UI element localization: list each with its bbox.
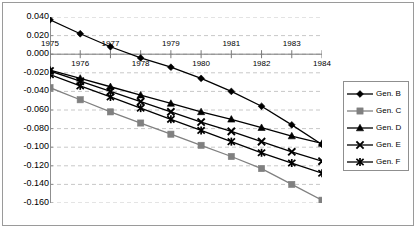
x-axis-tick-label: 1978 bbox=[127, 60, 155, 68]
chart-legend: Gen. BGen. CGen. DGen. EGen. F bbox=[343, 81, 409, 171]
data-point-marker bbox=[198, 75, 205, 82]
data-point-marker bbox=[137, 104, 144, 112]
data-point-marker bbox=[77, 82, 84, 90]
data-point-marker bbox=[77, 30, 84, 37]
y-axis: 0.0400.0200.000-0.020-0.040-0.060-0.080-… bbox=[3, 3, 49, 227]
data-point-marker bbox=[228, 153, 234, 159]
legend-item-gen-b[interactable]: Gen. B bbox=[344, 85, 410, 103]
legend-item-gen-e[interactable]: Gen. E bbox=[344, 136, 410, 154]
data-point-marker bbox=[357, 91, 364, 98]
data-point-marker bbox=[107, 109, 113, 115]
series-line bbox=[50, 88, 322, 201]
x-axis-tick-label: 1980 bbox=[187, 60, 215, 68]
series-gen-c bbox=[50, 85, 322, 203]
series-gen-f bbox=[50, 71, 322, 178]
data-point-marker bbox=[258, 149, 265, 157]
y-axis-tick-label: 0.040 bbox=[5, 12, 49, 21]
data-point-marker bbox=[107, 93, 114, 101]
y-axis-tick-label: -0.040 bbox=[5, 86, 49, 95]
y-axis-tick-label: -0.120 bbox=[5, 161, 49, 170]
y-axis-tick-label: -0.100 bbox=[5, 142, 49, 151]
data-point-marker bbox=[198, 126, 205, 134]
legend-marker-square-icon bbox=[346, 102, 374, 120]
data-point-marker bbox=[289, 181, 295, 187]
data-point-marker bbox=[50, 85, 53, 91]
data-point-marker bbox=[198, 118, 205, 125]
data-point-marker bbox=[357, 108, 363, 114]
y-axis-tick-label: -0.060 bbox=[5, 105, 49, 114]
legend-marker-x-icon bbox=[346, 136, 374, 154]
chart-frame: 0.0400.0200.000-0.020-0.040-0.060-0.080-… bbox=[2, 2, 414, 226]
data-point-marker bbox=[167, 115, 174, 123]
y-axis-tick-label: -0.080 bbox=[5, 124, 49, 133]
data-point-marker bbox=[258, 165, 264, 171]
legend-label: Gen. B bbox=[376, 89, 401, 98]
data-point-marker bbox=[77, 97, 83, 103]
series-gen-d bbox=[50, 66, 322, 146]
x-axis-tick-label: 1979 bbox=[157, 40, 185, 48]
data-point-marker bbox=[167, 108, 174, 115]
legend-marker-star-icon bbox=[346, 153, 374, 171]
y-axis-tick-label: -0.020 bbox=[5, 68, 49, 77]
data-point-marker bbox=[167, 64, 174, 71]
legend-item-gen-d[interactable]: Gen. D bbox=[344, 119, 410, 137]
x-axis-tick-label: 1984 bbox=[308, 60, 336, 68]
data-point-marker bbox=[258, 138, 265, 145]
data-point-marker bbox=[198, 142, 204, 148]
legend-item-gen-f[interactable]: Gen. F bbox=[344, 153, 410, 171]
legend-marker-diamond-icon bbox=[346, 85, 374, 103]
data-point-marker bbox=[258, 103, 265, 110]
x-axis-tick-label: 1977 bbox=[96, 40, 124, 48]
x-axis-tick-label: 1983 bbox=[278, 40, 306, 48]
y-axis-tick-label: -0.140 bbox=[5, 179, 49, 188]
data-point-marker bbox=[138, 120, 144, 126]
series-line bbox=[50, 75, 322, 174]
data-point-marker bbox=[288, 148, 295, 155]
data-point-marker bbox=[50, 17, 53, 23]
legend-label: Gen. D bbox=[376, 123, 401, 132]
legend-label: Gen. F bbox=[376, 157, 400, 166]
data-point-marker bbox=[228, 88, 235, 95]
x-axis-tick-label: 1981 bbox=[217, 40, 245, 48]
legend-label: Gen. C bbox=[376, 106, 401, 115]
series-line bbox=[50, 20, 322, 145]
data-point-marker bbox=[168, 131, 174, 137]
data-point-marker bbox=[288, 121, 295, 128]
legend-marker-triangle-icon bbox=[346, 119, 374, 137]
data-point-marker bbox=[228, 138, 235, 146]
legend-label: Gen. E bbox=[376, 140, 401, 149]
data-point-marker bbox=[288, 159, 295, 167]
x-axis-tick-label: 1976 bbox=[66, 60, 94, 68]
y-axis-tick-label: 0.000 bbox=[5, 49, 49, 58]
series-line bbox=[50, 70, 322, 143]
chart-plot-wrapper: 0.0400.0200.000-0.020-0.040-0.060-0.080-… bbox=[3, 3, 415, 227]
legend-item-gen-c[interactable]: Gen. C bbox=[344, 102, 410, 120]
y-axis-tick-label: -0.160 bbox=[5, 198, 49, 207]
data-point-marker bbox=[228, 128, 235, 135]
x-axis-tick-label: 1975 bbox=[36, 40, 64, 48]
x-axis-tick-label: 1982 bbox=[248, 60, 276, 68]
data-point-marker bbox=[319, 197, 322, 203]
